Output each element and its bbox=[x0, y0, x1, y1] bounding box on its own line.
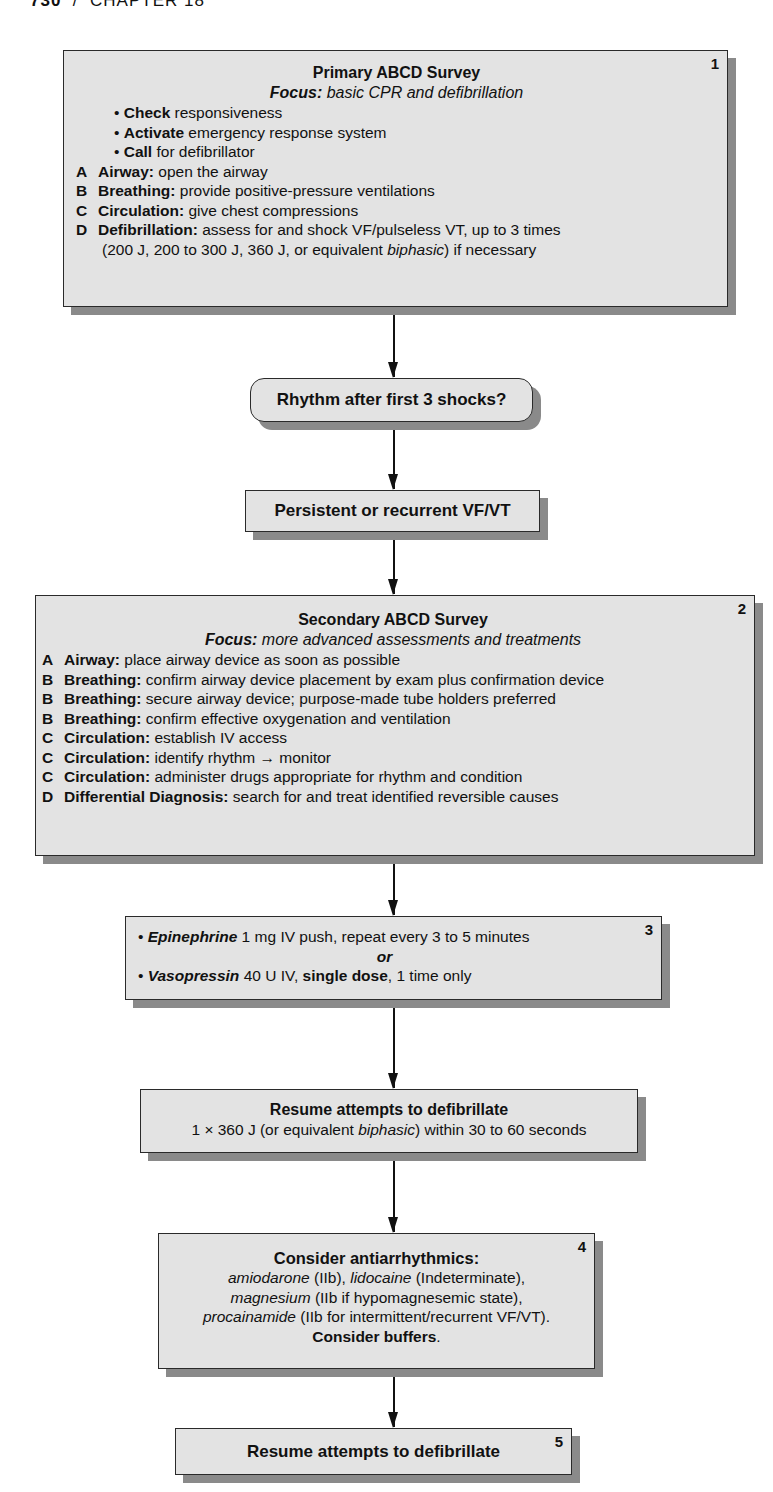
step-defibrillation-continued: (200 J, 200 to 300 J, 360 J, or equivale… bbox=[76, 240, 717, 260]
primary-survey-focus: Focus: basic CPR and defibrillation bbox=[76, 83, 717, 103]
antiarrhythmics-title: Consider antiarrhythmics: bbox=[165, 1248, 588, 1268]
decision-rhythm-box: Rhythm after first 3 shocks? bbox=[250, 378, 533, 422]
consider-buffers: Consider buffers. bbox=[165, 1327, 588, 1347]
arrow-2 bbox=[393, 430, 395, 489]
bullet-check: • Check responsiveness bbox=[76, 103, 717, 123]
secondary-survey-title: Secondary ABCD Survey bbox=[42, 610, 744, 630]
resume-defib-detail: 1 × 360 J (or equivalent biphasic) withi… bbox=[147, 1120, 631, 1140]
resume-defib-final-box: 5 Resume attempts to defibrillate bbox=[175, 1428, 572, 1475]
step-badge-1: 1 bbox=[711, 55, 719, 72]
step-airway: AAirway: open the airway bbox=[76, 162, 717, 182]
primary-survey-title: Primary ABCD Survey bbox=[76, 63, 717, 83]
epinephrine-line: • Epinephrine 1 mg IV push, repeat every… bbox=[138, 927, 651, 947]
or-label: or bbox=[138, 947, 651, 967]
antiarrhythmics-box: 4 Consider antiarrhythmics: amiodarone (… bbox=[158, 1233, 595, 1369]
page-number: 730 bbox=[30, 0, 61, 10]
header-separator: / bbox=[73, 0, 79, 10]
secondary-step: CCirculation: establish IV access bbox=[42, 728, 744, 748]
secondary-step: CCirculation: identify rhythm → monitor bbox=[42, 748, 744, 768]
primary-survey-box: 1 Primary ABCD Survey Focus: basic CPR a… bbox=[63, 50, 728, 307]
step-defibrillation: DDefibrillation: assess for and shock VF… bbox=[76, 220, 717, 240]
arrow-5 bbox=[393, 1008, 395, 1088]
secondary-survey-box: 2 Secondary ABCD Survey Focus: more adva… bbox=[35, 595, 755, 856]
antiarrhythmics-line-1: amiodarone (IIb), lidocaine (Indetermina… bbox=[165, 1268, 588, 1288]
bullet-activate: • Activate emergency response system bbox=[76, 123, 717, 143]
persistent-vf-box: Persistent or recurrent VF/VT bbox=[245, 490, 540, 532]
vasopressor-box: 3 • Epinephrine 1 mg IV push, repeat eve… bbox=[125, 916, 662, 1000]
step-badge-3: 3 bbox=[645, 921, 653, 938]
arrow-3 bbox=[393, 540, 395, 594]
bullet-call: • Call for defibrillator bbox=[76, 142, 717, 162]
step-badge-2: 2 bbox=[738, 600, 746, 617]
secondary-step: CCirculation: administer drugs appropria… bbox=[42, 767, 744, 787]
arrow-7 bbox=[393, 1377, 395, 1427]
secondary-survey-focus: Focus: more advanced assessments and tre… bbox=[42, 630, 744, 650]
vasopressin-line: • Vasopressin 40 U IV, single dose, 1 ti… bbox=[138, 966, 651, 986]
resume-defib-title: Resume attempts to defibrillate bbox=[147, 1100, 631, 1120]
secondary-step: DDifferential Diagnosis: search for and … bbox=[42, 787, 744, 807]
secondary-step: BBreathing: confirm airway device placem… bbox=[42, 670, 744, 690]
step-badge-5: 5 bbox=[555, 1433, 563, 1450]
resume-defib-final-label: Resume attempts to defibrillate bbox=[247, 1442, 500, 1462]
secondary-step: BBreathing: confirm effective oxygenatio… bbox=[42, 709, 744, 729]
antiarrhythmics-line-2: magnesium (IIb if hypomagnesemic state), bbox=[165, 1288, 588, 1308]
arrow-1 bbox=[393, 315, 395, 377]
resume-defib-box: Resume attempts to defibrillate 1 × 360 … bbox=[140, 1089, 638, 1153]
arrow-4 bbox=[393, 864, 395, 915]
step-breathing: BBreathing: provide positive-pressure ve… bbox=[76, 181, 717, 201]
secondary-step: AAirway: place airway device as soon as … bbox=[42, 650, 744, 670]
step-badge-4: 4 bbox=[578, 1238, 586, 1255]
antiarrhythmics-line-3: procainamide (IIb for intermittent/recur… bbox=[165, 1307, 588, 1327]
chapter-label: CHAPTER 18 bbox=[90, 0, 205, 10]
step-circulation: CCirculation: give chest compressions bbox=[76, 201, 717, 221]
decision-label: Rhythm after first 3 shocks? bbox=[277, 390, 507, 410]
page-header: 730 / CHAPTER 18 bbox=[30, 0, 205, 11]
persistent-label: Persistent or recurrent VF/VT bbox=[274, 501, 510, 521]
secondary-step: BBreathing: secure airway device; purpos… bbox=[42, 689, 744, 709]
arrow-6 bbox=[393, 1161, 395, 1232]
